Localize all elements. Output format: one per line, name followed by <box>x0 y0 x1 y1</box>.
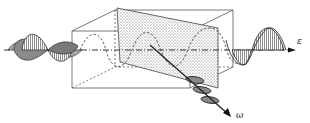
axis-arrowhead-icon <box>288 48 296 53</box>
output-axis-label: ε <box>297 36 302 46</box>
transmitted-wave-right <box>226 28 286 65</box>
deflected-axis-label: ω <box>236 110 243 120</box>
incident-wave-left <box>8 34 82 61</box>
diagram-canvas <box>0 0 310 123</box>
dotted-slab <box>117 8 218 88</box>
deflected-arrowhead-icon <box>223 108 231 117</box>
